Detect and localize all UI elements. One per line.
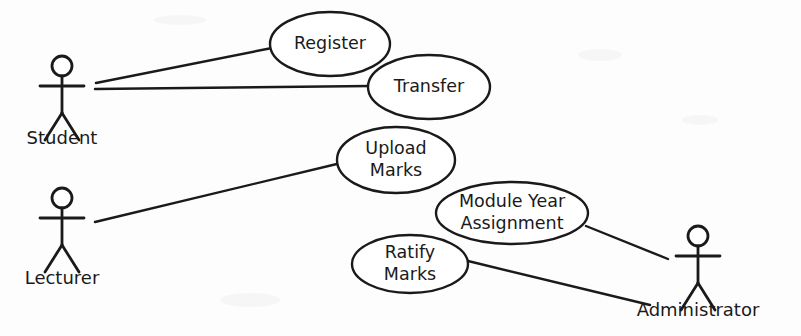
use-case-upload-marks[interactable]: UploadMarks [337,127,455,193]
use-case-transfer[interactable]: Transfer [368,55,490,119]
actor-head-icon [52,188,72,208]
use-case-diagram-canvas: Register Transfer UploadMarks Module Yea… [0,0,801,336]
actor-head-icon [52,56,72,76]
use-case-register[interactable]: Register [270,12,390,76]
association-student-transfer[interactable] [95,86,370,89]
association-lecturer-upload-marks[interactable] [95,163,341,222]
use-case-label: Transfer [393,76,465,96]
diagram-svg: Register Transfer UploadMarks Module Yea… [0,0,801,336]
actor-label: Lecturer [25,267,100,288]
association-student-register[interactable] [96,48,272,83]
use-case-label: Register [294,33,367,53]
association-ratify-marks-administrator[interactable] [468,261,650,305]
use-case-ratify-marks[interactable]: RatifyMarks [352,235,468,293]
actor-label: Administrator [637,299,760,320]
actor-label: Student [27,127,98,148]
association-module-year-assignment-administrator[interactable] [586,226,668,259]
actor-head-icon [688,226,708,246]
actor-administrator[interactable]: Administrator [637,226,760,320]
use-case-module-year-assignment[interactable]: Module YearAssignment [436,182,588,244]
actor-lecturer[interactable]: Lecturer [25,188,100,288]
actor-student[interactable]: Student [27,56,98,148]
